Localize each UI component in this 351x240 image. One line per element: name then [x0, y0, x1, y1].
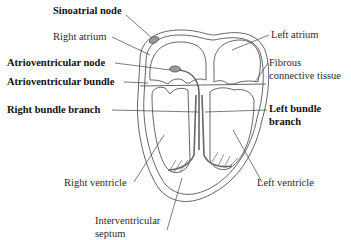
- fibrous-skeleton: [140, 84, 266, 86]
- label-sinoatrial-node: Sinoatrial node: [53, 5, 122, 17]
- label-left-atrium: Left atrium: [271, 29, 319, 41]
- label-left-ventricle: Left ventricle: [257, 177, 314, 189]
- label-left-bundle-line2: branch: [269, 116, 301, 128]
- heart-inner-wall: [144, 35, 264, 194]
- label-interventricular-line2: septum: [95, 228, 125, 240]
- label-left-bundle-line1: Left bundle: [269, 103, 321, 115]
- label-right-bundle-branch: Right bundle branch: [7, 104, 100, 116]
- label-atrioventricular-bundle: Atrioventricular bundle: [7, 76, 114, 88]
- label-fibrous-line2: connective tissue: [269, 70, 341, 82]
- right-bundle-branch-path: [168, 95, 196, 170]
- left-ventricle-chamber: [210, 88, 254, 170]
- label-interventricular-line1: Interventricular: [95, 215, 160, 227]
- label-right-ventricle: Right ventricle: [64, 177, 127, 189]
- label-atrioventricular-node: Atrioventricular node: [7, 57, 105, 69]
- left-bundle-branch-path: [202, 95, 232, 167]
- left-atrium-chamber: [214, 40, 261, 84]
- atrioventricular-node-shape: [170, 66, 181, 72]
- label-right-atrium: Right atrium: [53, 31, 106, 43]
- right-atrium-chamber: [150, 42, 206, 84]
- right-ventricle-chamber: [152, 87, 190, 172]
- label-fibrous-line1: Fibrous: [269, 57, 301, 69]
